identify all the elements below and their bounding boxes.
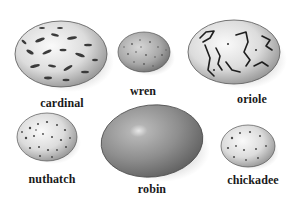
label-wren: wren <box>130 84 156 99</box>
label-cardinal: cardinal <box>40 96 83 111</box>
oriole-egg <box>188 20 287 89</box>
label-chickadee: chickadee <box>227 173 279 188</box>
label-nuthatch: nuthatch <box>29 172 76 187</box>
label-oriole: oriole <box>237 92 267 107</box>
cardinal-egg <box>15 21 114 92</box>
robin-egg <box>98 100 210 182</box>
chickadee-egg <box>221 125 279 170</box>
nuthatch-egg <box>17 113 81 164</box>
egg-illustration: cardinal wren oriole nuthatch robin chic… <box>0 0 300 199</box>
wren-egg <box>118 32 175 76</box>
label-robin: robin <box>138 182 166 197</box>
